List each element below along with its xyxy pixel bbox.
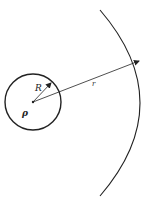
label-r: r [92, 80, 96, 88]
outer-arc [100, 10, 140, 196]
label-rho: ρ [21, 108, 29, 118]
label-R: R [34, 83, 42, 93]
sphere-field-diagram: R r ρ [0, 0, 155, 211]
distance-r-arrow [33, 61, 139, 102]
